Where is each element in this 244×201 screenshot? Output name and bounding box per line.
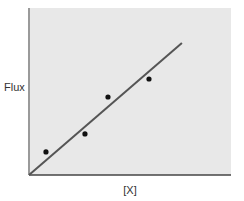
data-point <box>146 76 151 81</box>
chart: Flux [X] <box>0 0 244 201</box>
data-point <box>105 94 110 99</box>
x-axis-label: [X] <box>0 184 244 196</box>
y-axis-label: Flux <box>4 81 25 93</box>
data-point <box>43 149 48 154</box>
data-point <box>82 131 87 136</box>
chart-plot <box>0 0 244 201</box>
